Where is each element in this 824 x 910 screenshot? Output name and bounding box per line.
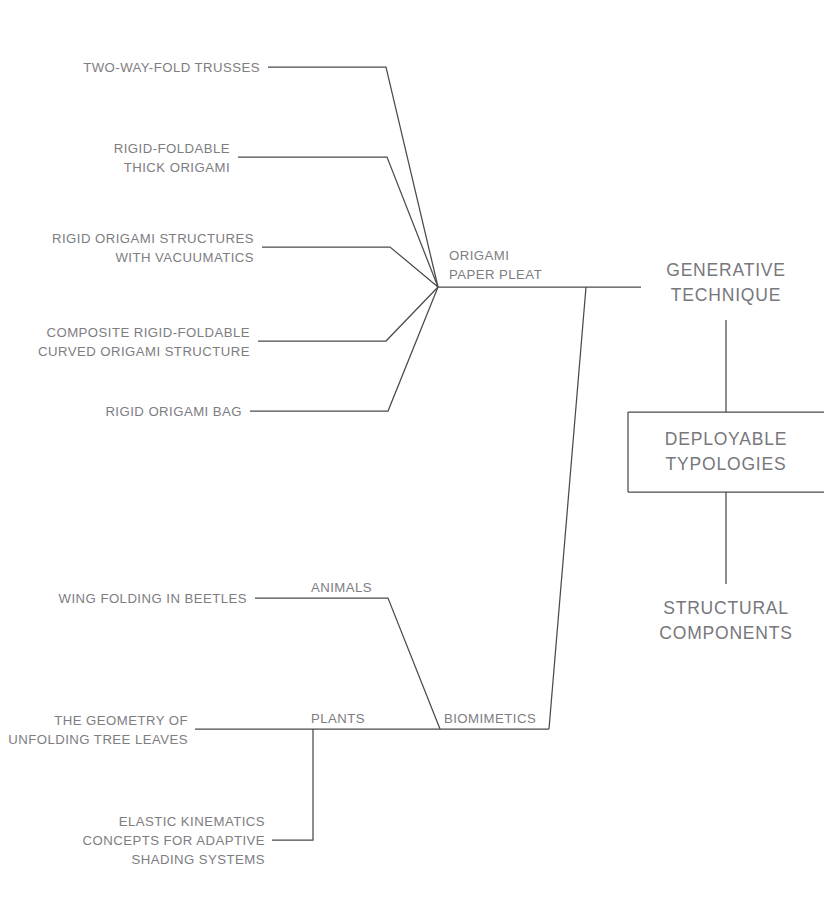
leaf-label-elastic-kinematics-line2: CONCEPTS FOR ADAPTIVE <box>0 831 265 850</box>
leaf-label-wing-folding-in-beetles: WING FOLDING IN BEETLES <box>0 589 247 608</box>
edge-rigid-foldable-thick-origami <box>238 157 438 287</box>
category-label-generative-technique-line2: TECHNIQUE <box>646 283 806 308</box>
leaf-label-rigid-origami-bag: RIGID ORIGAMI BAG <box>0 402 242 421</box>
edge-composite-rigid-foldable-curved-origami <box>258 287 438 341</box>
edge-rigid-origami-structures-with-vacuumatics <box>262 247 438 287</box>
edge-biomimetics-to-spine <box>549 287 586 729</box>
leaf-label-elastic-kinematics-line1: ELASTIC KINEMATICS <box>0 812 265 831</box>
leaf-label-rigid-foldable-thick-origami-line1: RIGID-FOLDABLE <box>0 139 230 158</box>
leaf-label-composite-curved-origami-line1: COMPOSITE RIGID-FOLDABLE <box>0 323 250 342</box>
hub-label-biomimetics: BIOMIMETICS <box>444 709 536 728</box>
hub-label-plants: PLANTS <box>311 709 365 728</box>
leaf-label-rigid-origami-structures-vacuumatics-line1: RIGID ORIGAMI STRUCTURES <box>0 229 254 248</box>
leaf-label-elastic-kinematics-line3: SHADING SYSTEMS <box>0 850 265 869</box>
hub-label-origami-paper-pleat-line1: ORIGAMI <box>449 246 509 265</box>
hub-label-origami-paper-pleat-line2: PAPER PLEAT <box>449 265 542 284</box>
edge-elastic-kinematics <box>272 729 313 840</box>
category-label-deployable-typologies-line2: TYPOLOGIES <box>646 452 806 477</box>
category-label-deployable-typologies-line1: DEPLOYABLE <box>646 427 806 452</box>
diagram-canvas: TWO-WAY-FOLD TRUSSES RIGID-FOLDABLE THIC… <box>0 0 824 910</box>
hub-label-animals: ANIMALS <box>311 578 372 597</box>
category-label-structural-components-line2: COMPONENTS <box>638 621 814 646</box>
category-label-generative-technique-line1: GENERATIVE <box>646 258 806 283</box>
leaf-label-two-way-fold-trusses: TWO-WAY-FOLD TRUSSES <box>0 58 260 77</box>
leaf-label-rigid-origami-structures-vacuumatics-line2: WITH VACUUMATICS <box>0 248 254 267</box>
edge-two-way-fold-trusses <box>268 67 438 287</box>
leaf-label-rigid-foldable-thick-origami-line2: THICK ORIGAMI <box>0 158 230 177</box>
leaf-label-geometry-unfolding-tree-leaves-line2: UNFOLDING TREE LEAVES <box>0 730 188 749</box>
edge-rigid-origami-bag <box>250 287 438 411</box>
leaf-label-composite-curved-origami-line2: CURVED ORIGAMI STRUCTURE <box>0 342 250 361</box>
category-label-structural-components-line1: STRUCTURAL <box>638 596 814 621</box>
leaf-label-geometry-unfolding-tree-leaves-line1: THE GEOMETRY OF <box>0 711 188 730</box>
